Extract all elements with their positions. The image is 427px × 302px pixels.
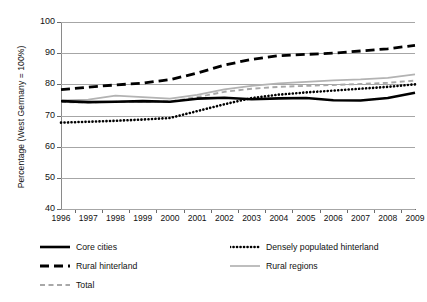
y-tick-label: 90	[33, 48, 55, 57]
y-tick-label: 80	[33, 79, 55, 88]
y-tick-label: 70	[33, 111, 55, 120]
legend-swatch-gray-dash-icon	[40, 280, 70, 290]
y-tick-label: 100	[33, 17, 55, 26]
legend-label: Total	[76, 281, 94, 290]
legend-item[interactable]: Rural regions	[230, 261, 318, 271]
legend-label: Core cities	[76, 243, 117, 252]
x-tick-label: 2006	[318, 213, 348, 223]
y-tick-label: 60	[33, 142, 55, 151]
x-tick-label: 1997	[73, 213, 103, 223]
x-tick-label: 2005	[291, 213, 321, 223]
series-line	[61, 74, 415, 100]
chart-legend: Core citiesDensely populated hinterlandR…	[40, 240, 420, 298]
legend-label: Rural hinterland	[76, 262, 137, 271]
y-tick-label: 50	[33, 173, 55, 182]
legend-swatch-solid-thick-icon	[40, 242, 70, 252]
series-line	[61, 45, 415, 89]
x-tick-label: 2003	[237, 213, 267, 223]
gridline	[61, 209, 415, 210]
x-tick-label: 2009	[400, 213, 427, 223]
x-tick-label: 2008	[373, 213, 403, 223]
legend-label: Densely populated hinterland	[266, 243, 379, 252]
plot-area	[61, 22, 415, 209]
legend-swatch-dotted-icon	[230, 242, 260, 252]
x-tick-label: 1999	[128, 213, 158, 223]
legend-label: Rural regions	[266, 262, 318, 271]
x-tick-label: 1996	[46, 213, 76, 223]
x-tick-label: 2004	[264, 213, 294, 223]
legend-swatch-long-dash-icon	[40, 261, 70, 271]
x-tick-label: 2007	[346, 213, 376, 223]
x-tick-label: 1998	[100, 213, 130, 223]
x-tick-label: 2002	[209, 213, 239, 223]
x-tick-label: 2001	[182, 213, 212, 223]
y-tick-label: 40	[33, 204, 55, 213]
line-chart: Percentage (West Germany = 100%) 1009080…	[0, 0, 427, 302]
legend-item[interactable]: Total	[40, 280, 94, 290]
legend-item[interactable]: Rural hinterland	[40, 261, 137, 271]
legend-item[interactable]: Core cities	[40, 242, 117, 252]
legend-item[interactable]: Densely populated hinterland	[230, 242, 379, 252]
y-axis-title: Percentage (West Germany = 100%)	[16, 17, 26, 217]
series-layer	[61, 22, 415, 209]
legend-swatch-solid-light-icon	[230, 261, 260, 271]
series-line	[61, 84, 415, 122]
x-tick-label: 2000	[155, 213, 185, 223]
